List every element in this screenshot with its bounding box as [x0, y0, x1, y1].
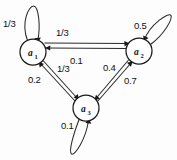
self-loop-a3[interactable] [71, 119, 92, 155]
self-loop-a1-path [25, 6, 39, 42]
edge-a2-to-a1[interactable] [45, 45, 128, 50]
self-loop-a2-weight: 0.5 [134, 20, 147, 31]
edge-a2-to-a1-weight: 0.1 [70, 55, 83, 66]
node-a1-circle [20, 39, 46, 65]
self-loop-a3-weight: 0.1 [61, 120, 74, 131]
self-loop-a1-weight: 1/3 [3, 18, 16, 29]
diagram-canvas: a 1 a 2 a 3 1/3 0.5 0.1 1/3 0.1 1/3 0.2 … [0, 0, 177, 160]
node-a1-subscript: 1 [35, 53, 38, 60]
node-a2-label: a [134, 47, 139, 57]
node-a2-subscript: 2 [141, 52, 144, 59]
node-a1[interactable]: a 1 [20, 39, 46, 65]
node-a2-circle [126, 38, 152, 64]
node-a3-circle [73, 95, 99, 121]
node-a2[interactable]: a 2 [126, 38, 152, 64]
state-transition-graph: a 1 a 2 a 3 1/3 0.5 0.1 1/3 0.1 1/3 0.2 … [0, 0, 177, 160]
edge-a1-to-a2[interactable] [45, 41, 130, 46]
edge-a1-to-a3-weight: 1/3 [57, 63, 70, 74]
edge-a3-to-a1-weight: 0.2 [28, 74, 41, 85]
edge-a2-to-a1-line [47, 48, 128, 49]
edge-a1-to-a2-weight: 1/3 [56, 27, 69, 38]
edge-a2-to-a3-weight: 0.4 [103, 62, 116, 73]
node-a3[interactable]: a 3 [73, 95, 99, 121]
edge-a3-to-a2-weight: 0.7 [124, 75, 137, 86]
self-loop-a2[interactable] [143, 15, 171, 45]
node-a3-label: a [81, 104, 86, 114]
self-loop-a2-path [145, 15, 172, 45]
self-loop-a1[interactable] [25, 6, 41, 43]
node-a1-label: a [28, 48, 33, 58]
edge-a1-to-a2-line [45, 43, 129, 44]
